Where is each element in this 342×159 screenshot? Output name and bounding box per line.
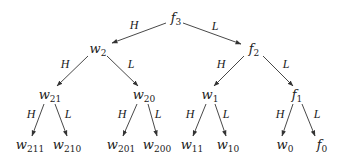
tree-diagram: HLHLHLHLHLHLHLf3w2f2w21w20w1f1w211w210w2… <box>0 0 342 159</box>
node-w11: w11 <box>181 138 204 154</box>
node-f0: f0 <box>317 138 328 154</box>
edge-label-w21-w211: H <box>27 108 36 120</box>
node-subscript: 200 <box>154 144 171 154</box>
node-w211: w211 <box>16 138 44 154</box>
node-base: w <box>133 87 144 102</box>
node-f3: f3 <box>171 11 182 27</box>
node-w0: w0 <box>277 138 294 154</box>
node-subscript: 211 <box>27 144 44 154</box>
node-subscript: 1 <box>213 94 219 104</box>
edge-label-f2-f1: L <box>283 58 290 70</box>
node-subscript: 0 <box>322 144 328 154</box>
edge-label-f3-f2: L <box>212 20 219 32</box>
node-subscript: 3 <box>176 17 182 27</box>
node-w20: w20 <box>133 88 156 104</box>
node-f2: f2 <box>249 42 260 58</box>
edge-arrow-f3-w2 <box>112 23 166 43</box>
node-base: w <box>277 137 288 152</box>
node-f1: f1 <box>292 88 303 104</box>
node-w2: w2 <box>90 42 107 58</box>
node-w201: w201 <box>107 138 135 154</box>
node-base: w <box>217 137 228 152</box>
edge-label-f2-w1: H <box>217 58 226 70</box>
node-subscript: 2 <box>101 48 107 58</box>
edge-label-w2-w20: L <box>128 58 135 70</box>
edge-label-f3-w2: H <box>130 19 139 31</box>
node-base: w <box>39 87 50 102</box>
node-w10: w10 <box>217 138 240 154</box>
node-w21: w21 <box>39 88 62 104</box>
node-subscript: 1 <box>297 94 303 104</box>
edge-label-w1-w11: H <box>186 108 195 120</box>
node-subscript: 10 <box>228 144 239 154</box>
node-base: w <box>202 87 213 102</box>
edge-label-w21-w210: L <box>65 108 72 120</box>
node-base: w <box>90 41 101 56</box>
edge-label-f1-w0: H <box>276 108 285 120</box>
edge-arrow-w1-w11 <box>193 104 206 136</box>
node-base: w <box>107 137 118 152</box>
node-subscript: 210 <box>64 144 81 154</box>
node-subscript: 21 <box>50 94 61 104</box>
node-subscript: 201 <box>118 144 135 154</box>
node-w210: w210 <box>53 138 81 154</box>
node-subscript: 20 <box>144 94 155 104</box>
node-w200: w200 <box>143 138 171 154</box>
node-subscript: 2 <box>254 48 260 58</box>
node-base: w <box>181 137 192 152</box>
edge-label-w2-w21: H <box>61 58 70 70</box>
node-subscript: 0 <box>288 144 294 154</box>
edge-label-w1-w10: L <box>223 108 230 120</box>
node-w1: w1 <box>202 88 219 104</box>
node-base: w <box>53 137 64 152</box>
node-base: w <box>143 137 154 152</box>
edge-label-w20-w201: H <box>118 108 127 120</box>
node-base: w <box>16 137 27 152</box>
edge-label-w20-w200: L <box>155 108 162 120</box>
edge-label-f1-f0: L <box>314 108 321 120</box>
node-subscript: 11 <box>192 144 203 154</box>
